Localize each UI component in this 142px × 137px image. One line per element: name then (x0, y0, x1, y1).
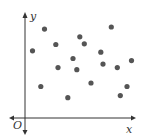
data-point (129, 58, 134, 63)
data-point (115, 65, 120, 70)
data-point (55, 65, 60, 70)
y-axis-arrow-up-icon (23, 12, 28, 18)
data-point (82, 41, 87, 46)
data-point (65, 95, 70, 100)
data-point (124, 84, 129, 89)
scatter-plot: y x O (0, 0, 142, 137)
origin-label: O (13, 119, 22, 132)
data-point (30, 48, 35, 53)
data-point (109, 24, 114, 29)
data-point (70, 56, 75, 61)
x-axis-arrow-right-icon (131, 116, 136, 121)
data-point (100, 62, 105, 67)
data-points (30, 24, 134, 100)
data-point (38, 84, 43, 89)
data-point (53, 42, 58, 47)
data-point (74, 67, 79, 72)
y-axis-arrow-down-icon (23, 130, 28, 135)
data-point (77, 34, 82, 39)
y-axis (23, 12, 28, 135)
y-axis-label: y (29, 10, 37, 23)
data-point (118, 93, 123, 98)
data-point (88, 80, 93, 85)
data-point (42, 27, 47, 32)
x-axis (9, 116, 136, 121)
data-point (98, 50, 103, 55)
x-axis-label: x (126, 123, 133, 136)
